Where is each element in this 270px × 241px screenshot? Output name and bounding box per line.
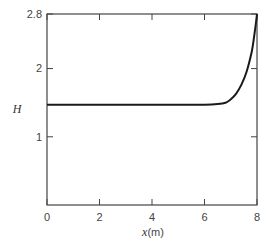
y-tick-label-2: 2	[36, 62, 42, 74]
chart: 0 2 4 6 8 1 2 2.8 H x(m)	[0, 0, 270, 241]
x-tick-label-6: 6	[201, 211, 207, 223]
y-tick-label-1: 1	[36, 131, 42, 143]
y-tick-label-2-8: 2.8	[27, 8, 42, 20]
x-tick-label-2: 2	[96, 211, 102, 223]
x-tick-label-4: 4	[149, 211, 155, 223]
x-tick-label-0: 0	[44, 211, 50, 223]
y-ticks	[47, 14, 257, 137]
data-line-h	[47, 14, 257, 105]
x-axis-label: x(m)	[141, 225, 164, 239]
x-tick-label-8: 8	[254, 211, 260, 223]
x-ticks	[47, 14, 257, 205]
x-axis-label-unit: (m)	[147, 226, 164, 238]
plot-frame	[47, 14, 257, 205]
y-axis-label: H	[12, 102, 23, 116]
